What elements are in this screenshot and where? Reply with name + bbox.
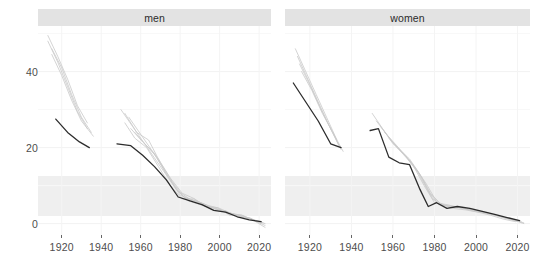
panel-strip-women: women xyxy=(285,9,530,26)
x-tick-label: 2020 xyxy=(498,241,538,253)
series-line xyxy=(295,49,337,140)
series-line xyxy=(129,117,259,221)
series-line xyxy=(293,83,341,148)
panel-title-men: men xyxy=(144,12,165,24)
x-tick-1920: 1920 xyxy=(290,235,330,253)
x-tick-mark xyxy=(309,235,310,238)
panel-strip-men: men xyxy=(38,9,271,26)
x-tick-2000: 2000 xyxy=(456,235,496,253)
x-tick-1980: 1980 xyxy=(414,235,454,253)
series-line xyxy=(117,144,261,222)
x-tick-label: 1960 xyxy=(373,241,413,253)
x-tick-label: 1980 xyxy=(414,241,454,253)
panel-body-men xyxy=(38,26,271,235)
x-tick-mark xyxy=(392,235,393,238)
y-tick-label-40: 40 xyxy=(26,66,38,78)
x-tick-mark xyxy=(517,235,518,238)
x-tick-1960: 1960 xyxy=(373,235,413,253)
panel-title-women: women xyxy=(390,12,424,24)
y-tick-label-20: 20 xyxy=(26,142,38,154)
series-line xyxy=(385,132,524,223)
x-tick-mark xyxy=(351,235,352,238)
series-line xyxy=(52,55,93,137)
gridlines xyxy=(285,26,530,235)
gridlines xyxy=(38,26,271,235)
x-tick-mark xyxy=(476,235,477,238)
series-line xyxy=(125,113,265,223)
panel-body-women xyxy=(285,26,530,235)
series-line xyxy=(135,132,265,227)
chart-figure: 02040 men women 192019401960198020002020… xyxy=(0,0,538,279)
x-axis-women: 192019401960198020002020 xyxy=(0,235,538,265)
x-tick-label: 2000 xyxy=(456,241,496,253)
series-line xyxy=(121,110,263,223)
x-tick-2020: 2020 xyxy=(498,235,538,253)
plot-area-men xyxy=(38,26,271,235)
x-tick-label: 1940 xyxy=(331,241,371,253)
plot-area-women xyxy=(285,26,530,235)
x-tick-1940: 1940 xyxy=(331,235,371,253)
series-line xyxy=(389,138,516,222)
x-tick-mark xyxy=(434,235,435,238)
x-tick-label: 1920 xyxy=(290,241,330,253)
